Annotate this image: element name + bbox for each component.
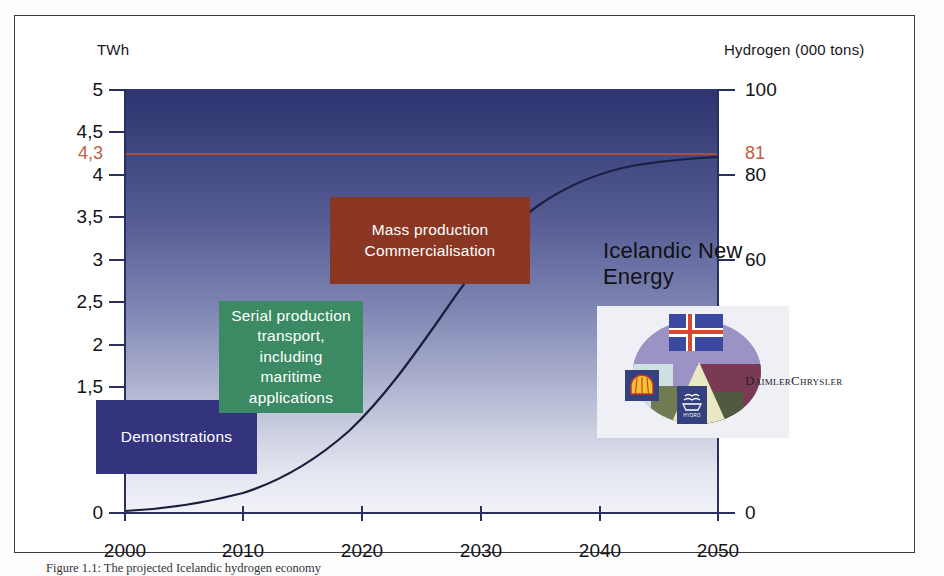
left-label-45: 4,5 xyxy=(43,121,103,143)
tick-right-100 xyxy=(719,89,735,91)
tick-right-0 xyxy=(719,512,735,514)
tick-left-2 xyxy=(109,344,125,346)
figure-caption: Figure 1.1: The projected Icelandic hydr… xyxy=(46,561,321,576)
x-label-2000: 2000 xyxy=(85,540,165,562)
x-label-2040: 2040 xyxy=(560,540,640,562)
left-label-5: 5 xyxy=(43,79,103,101)
icelandic-new-energy-title: Icelandic New Energy xyxy=(603,238,793,291)
tick-left-4 xyxy=(109,174,125,176)
hydro-wordmark: HYDRO xyxy=(683,413,700,418)
phase-box-mass-production: Mass production Commercialisation xyxy=(330,197,530,284)
right-label-100: 100 xyxy=(745,79,815,101)
left-label-2: 2 xyxy=(43,334,103,356)
x-label-2010: 2010 xyxy=(203,540,283,562)
tick-x-2010 xyxy=(242,506,244,521)
x-label-2050: 2050 xyxy=(678,540,758,562)
left-axis-labels: 5 4,5 4,3 4 3,5 3 2,5 2 1,5 0 xyxy=(35,16,103,554)
left-label-43-highlight: 4,3 xyxy=(43,143,103,164)
tick-left-5 xyxy=(109,89,125,91)
right-label-81-highlight: 81 xyxy=(745,143,815,164)
tick-x-2050 xyxy=(717,506,719,521)
left-label-25: 2,5 xyxy=(43,291,103,313)
chart-frame: TWh Hydrogen (000 tons) xyxy=(14,15,915,553)
tick-left-25 xyxy=(109,301,125,303)
hydro-viking-shape xyxy=(681,392,703,412)
shell-logo-icon xyxy=(625,370,659,401)
flag-red-cross-horizontal xyxy=(669,330,723,334)
tick-left-3 xyxy=(109,259,125,261)
x-label-2020: 2020 xyxy=(322,540,402,562)
shell-pecten-shape xyxy=(629,374,655,397)
iceland-flag-icon xyxy=(669,314,723,351)
norsk-hydro-logo-icon: HYDRO xyxy=(677,386,707,424)
flag-red-cross-vertical xyxy=(688,314,692,351)
tick-left-45 xyxy=(109,131,125,133)
tick-left-35 xyxy=(109,216,125,218)
tick-x-2040 xyxy=(599,506,601,521)
left-label-15: 1,5 xyxy=(43,376,103,398)
right-label-80: 80 xyxy=(745,164,815,186)
left-label-4: 4 xyxy=(43,164,103,186)
tick-x-2020 xyxy=(361,506,363,521)
x-axis-line xyxy=(109,512,734,514)
daimlerchrysler-wordmark: DaimlerChrysler xyxy=(745,373,843,389)
phase-box-serial-production: Serial production transport, including m… xyxy=(219,301,363,413)
right-axis-line xyxy=(717,89,719,513)
tick-left-0 xyxy=(109,512,125,514)
left-label-0: 0 xyxy=(43,502,103,524)
figure-container: TWh Hydrogen (000 tons) xyxy=(0,0,944,576)
tick-right-80 xyxy=(719,174,735,176)
left-label-35: 3,5 xyxy=(43,206,103,228)
tick-x-2030 xyxy=(480,506,482,521)
tick-x-2000 xyxy=(124,506,126,521)
left-label-3: 3 xyxy=(43,249,103,271)
icelandic-new-energy-logo: HYDRO xyxy=(597,306,789,438)
tick-left-15 xyxy=(109,386,125,388)
x-label-2030: 2030 xyxy=(441,540,521,562)
right-label-0: 0 xyxy=(745,502,815,524)
